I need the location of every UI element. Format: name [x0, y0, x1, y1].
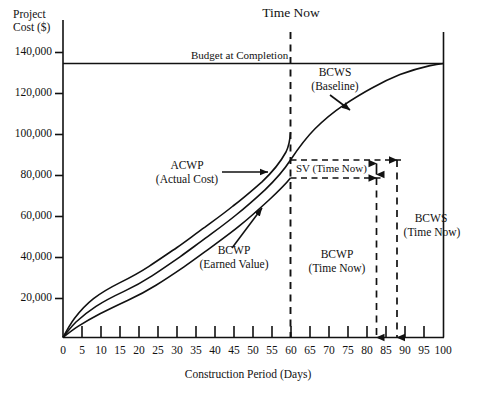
- x-tick-label-100: 100: [430, 344, 456, 357]
- curve-bcws: [63, 64, 444, 338]
- sv-label: SV (Time Now): [296, 162, 386, 174]
- acwp-label-line1: ACWP: [151, 159, 223, 172]
- bcws-time-now-label-line2: (Time Now): [391, 226, 473, 239]
- x-tick-label-20: 20: [129, 344, 149, 357]
- x-tick-label-65: 65: [300, 344, 320, 357]
- x-tick-label-55: 55: [262, 344, 282, 357]
- y-tick-label-140000: 140,000: [0, 45, 52, 58]
- y-tick-label-100000: 100,000: [0, 127, 52, 140]
- chart-figure: Project Cost ($) 140,000 120,000 100,000…: [0, 0, 477, 395]
- y-tick-label-20000: 20,000: [0, 291, 52, 304]
- bcwp-time-now-label-line1: BCWP: [302, 248, 372, 261]
- x-tick-label-60: 60: [281, 344, 301, 357]
- x-tick-label-50: 50: [243, 344, 263, 357]
- x-tick-label-40: 40: [205, 344, 225, 357]
- y-tick-label-40000: 40,000: [0, 250, 52, 263]
- y-axis-title-line2: Cost ($): [13, 21, 71, 34]
- x-tick-label-80: 80: [357, 344, 377, 357]
- x-tick-label-25: 25: [148, 344, 168, 357]
- bcwp-time-now-label-line2: (Time Now): [294, 262, 380, 275]
- y-axis-ticks: [55, 53, 63, 299]
- x-tick-label-70: 70: [319, 344, 339, 357]
- x-tick-label-35: 35: [186, 344, 206, 357]
- y-tick-label-80000: 80,000: [0, 168, 52, 181]
- acwp-label-line2: (Actual Cost): [141, 173, 233, 186]
- x-tick-label-30: 30: [167, 344, 187, 357]
- budget-at-completion-label: Budget at Completion: [191, 49, 311, 61]
- y-tick-label-120000: 120,000: [0, 86, 52, 99]
- bcwp-label-line1: BCWP: [188, 244, 280, 257]
- x-tick-label-45: 45: [224, 344, 244, 357]
- bcws-baseline-label-line1: BCWS: [290, 66, 380, 79]
- x-tick-label-5: 5: [72, 344, 92, 357]
- x-tick-label-15: 15: [110, 344, 130, 357]
- axis-lines: [63, 20, 444, 338]
- x-tick-label-10: 10: [91, 344, 111, 357]
- bcws-baseline-label-line2: (Baseline): [290, 80, 380, 93]
- x-axis-ticks: [82, 326, 424, 338]
- bcws-time-now-label-line1: BCWS: [399, 212, 463, 225]
- y-tick-label-60000: 60,000: [0, 209, 52, 222]
- y-axis-title-line1: Project: [13, 8, 71, 21]
- time-now-label: Time Now: [236, 5, 346, 20]
- bcwp-label-line2: (Earned Value): [180, 258, 288, 271]
- x-tick-label-85: 85: [376, 344, 396, 357]
- x-axis-title: Construction Period (Days): [148, 368, 348, 381]
- x-tick-label-90: 90: [395, 344, 415, 357]
- x-tick-label-75: 75: [338, 344, 358, 357]
- x-tick-label-0: 0: [53, 344, 73, 357]
